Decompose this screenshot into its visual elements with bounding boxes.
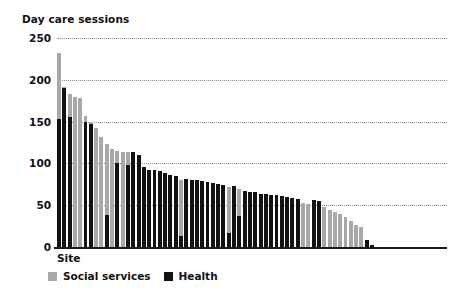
bar bbox=[121, 152, 125, 247]
bar bbox=[280, 196, 284, 247]
bar-segment-social-services bbox=[110, 149, 114, 247]
bar-segment-social-services bbox=[344, 217, 348, 247]
bar-segment-health bbox=[115, 163, 119, 247]
bar-segment-health bbox=[280, 196, 284, 247]
chart-legend: Social services Health bbox=[48, 270, 218, 282]
bar-segment-health bbox=[200, 181, 204, 247]
bar-segment-health bbox=[211, 183, 215, 247]
bar bbox=[248, 192, 252, 247]
bar-segment-health bbox=[158, 171, 162, 247]
bar bbox=[211, 183, 215, 247]
bar-segment-health bbox=[57, 119, 61, 247]
bar-segment-social-services bbox=[237, 189, 241, 217]
bar-segment-health bbox=[163, 173, 167, 247]
bar bbox=[190, 180, 194, 247]
bar bbox=[312, 200, 316, 247]
bar bbox=[153, 170, 157, 247]
bar-segment-social-services bbox=[73, 97, 77, 247]
bar bbox=[57, 53, 61, 247]
bar bbox=[62, 87, 66, 248]
day-care-sessions-chart: Day care sessions 050100150200250 Site S… bbox=[0, 0, 468, 298]
bar-segment-health bbox=[137, 155, 141, 247]
bar bbox=[306, 204, 310, 247]
bar-segment-health bbox=[275, 195, 279, 247]
bar-segment-health bbox=[142, 167, 146, 247]
bar bbox=[365, 240, 369, 247]
y-tick-label-150: 150 bbox=[29, 116, 51, 128]
bar bbox=[105, 144, 109, 247]
bar-segment-social-services bbox=[68, 94, 72, 117]
bar-segment-social-services bbox=[115, 151, 119, 164]
bar bbox=[328, 210, 332, 247]
bar-segment-social-services bbox=[179, 180, 183, 236]
legend-label-health: Health bbox=[179, 270, 218, 282]
bar bbox=[338, 214, 342, 247]
bar-segment-health bbox=[179, 236, 183, 247]
bar-segment-health bbox=[190, 180, 194, 247]
bar-segment-social-services bbox=[322, 207, 326, 247]
bar-segment-health bbox=[269, 195, 273, 247]
bar-segment-social-services bbox=[126, 152, 130, 165]
bar bbox=[322, 207, 326, 247]
bar-segment-social-services bbox=[306, 204, 310, 247]
bar bbox=[73, 97, 77, 247]
bar bbox=[264, 194, 268, 247]
bar-segment-social-services bbox=[354, 225, 358, 247]
bar bbox=[142, 167, 146, 247]
bar-segment-social-services bbox=[359, 227, 363, 247]
bar-segment-health bbox=[68, 117, 72, 247]
bar-segment-health bbox=[153, 170, 157, 247]
bar-segment-health bbox=[290, 198, 294, 247]
bar bbox=[179, 180, 183, 247]
bar-segment-health bbox=[105, 215, 109, 247]
bar bbox=[359, 227, 363, 247]
bar bbox=[290, 198, 294, 247]
plot-area bbox=[57, 38, 447, 247]
legend-label-social-services: Social services bbox=[63, 270, 151, 282]
bar-segment-social-services bbox=[333, 212, 337, 247]
bar bbox=[163, 173, 167, 247]
bar bbox=[237, 188, 241, 247]
bar-segment-health bbox=[195, 180, 199, 247]
bar bbox=[99, 137, 103, 247]
bar bbox=[78, 98, 82, 247]
bar bbox=[333, 212, 337, 247]
bar-segment-health bbox=[237, 216, 241, 247]
y-axis-tick-labels: 050100150200250 bbox=[15, 38, 51, 247]
bar-segment-social-services bbox=[99, 137, 103, 247]
bar-segment-health bbox=[216, 184, 220, 247]
bar bbox=[168, 175, 172, 247]
bar-segment-health bbox=[365, 240, 369, 247]
bar bbox=[89, 122, 93, 247]
bar bbox=[115, 151, 119, 247]
bar-segment-health bbox=[232, 186, 236, 247]
bar-segment-health bbox=[147, 170, 151, 247]
bar-segment-social-services bbox=[227, 187, 231, 233]
x-axis-label: Site bbox=[57, 252, 80, 264]
bar-segment-social-services bbox=[338, 214, 342, 247]
bar-segment-social-services bbox=[78, 98, 82, 247]
bar bbox=[131, 152, 135, 247]
bar-segment-health bbox=[317, 201, 321, 247]
bar bbox=[206, 182, 210, 247]
bar bbox=[126, 152, 130, 247]
bar-segment-social-services bbox=[121, 152, 125, 247]
bar-segment-health bbox=[206, 182, 210, 247]
bar bbox=[216, 184, 220, 247]
bar bbox=[158, 171, 162, 247]
bar-segment-social-services bbox=[328, 210, 332, 247]
bar-segment-health bbox=[296, 199, 300, 247]
bar bbox=[354, 225, 358, 247]
legend-swatch-social-services-icon bbox=[48, 272, 57, 281]
bar bbox=[174, 176, 178, 247]
bar-segment-health bbox=[253, 192, 257, 247]
bar bbox=[349, 221, 353, 247]
bar bbox=[200, 181, 204, 247]
bar bbox=[285, 197, 289, 247]
bar-segment-health bbox=[89, 124, 93, 247]
legend-item-health: Health bbox=[164, 270, 218, 282]
bar bbox=[301, 203, 305, 247]
bar bbox=[110, 149, 114, 247]
bar-segment-social-services bbox=[57, 53, 61, 119]
bar-segment-health bbox=[248, 192, 252, 247]
